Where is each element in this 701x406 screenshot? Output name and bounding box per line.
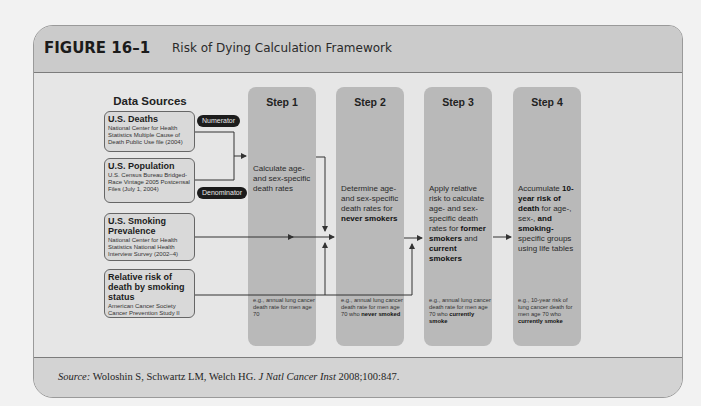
step-4-title: Step 4 — [513, 96, 581, 108]
step-3-title: Step 3 — [424, 96, 492, 108]
step-2-title: Step 2 — [336, 96, 404, 108]
step-4-description: Accumulate 10-year risk of death for age… — [518, 184, 580, 254]
step-1-title: Step 1 — [248, 96, 316, 108]
numerator-badge: Numerator — [197, 115, 240, 127]
source-name: U.S. Deaths — [108, 114, 191, 124]
step-4-example: e.g., 10-year risk of lung cancer death … — [518, 297, 580, 325]
source-box-relative-risk: Relative risk of death by smoking status… — [104, 269, 195, 318]
step-3-column: Step 3 Apply relative risk to calculate … — [424, 87, 492, 346]
data-sources-heading: Data Sources — [100, 95, 200, 107]
step-2-description: Determine age- and sex-specific death ra… — [341, 184, 403, 224]
step-2-column: Step 2 Determine age- and sex-specific d… — [336, 87, 404, 346]
source-box-smoking-prevalence: U.S. Smoking Prevalence National Center … — [104, 213, 195, 261]
source-name: U.S. Smoking Prevalence — [108, 216, 191, 236]
step-4-column: Step 4 Accumulate 10-year risk of death … — [513, 87, 581, 346]
figure-footer: Source: Woloshin S, Schwartz LM, Welch H… — [34, 357, 682, 397]
step-1-description: Calculate age- and sex-specific death ra… — [253, 164, 315, 194]
step-1-column: Step 1 Calculate age- and sex-specific d… — [248, 87, 316, 346]
source-citation: Source: Woloshin S, Schwartz LM, Welch H… — [58, 371, 399, 382]
source-detail: American Cancer Society Cancer Preventio… — [108, 303, 191, 317]
step-3-example: e.g., annual lung cancer death rate for … — [429, 297, 491, 325]
source-authors: Woloshin S, Schwartz LM, Welch HG. — [90, 371, 258, 382]
source-box-us-population: U.S. Population U.S. Census Bureau Bridg… — [104, 158, 195, 203]
source-detail: National Center for Health Statistics Na… — [108, 237, 191, 259]
figure-title: Risk of Dying Calculation Framework — [172, 41, 392, 55]
step-3-description: Apply relative risk to calculate age- an… — [429, 184, 491, 264]
step-2-example: e.g., annual lung cancer death rate for … — [341, 297, 403, 318]
figure-header: FIGURE 16–1 Risk of Dying Calculation Fr… — [34, 26, 682, 73]
source-year-volume: 2008;100:847. — [336, 371, 400, 382]
denominator-badge: Denominator — [197, 187, 247, 199]
source-name: U.S. Population — [108, 161, 191, 171]
source-detail: U.S. Census Bureau Bridged-Race Vintage … — [108, 172, 191, 194]
step-1-example: e.g., annual lung cancer death rate for … — [253, 297, 315, 318]
source-label: Source: — [58, 371, 90, 382]
source-journal: J Natl Cancer Inst — [259, 371, 336, 382]
source-name: Relative risk of death by smoking status — [108, 272, 191, 302]
figure-label: FIGURE 16–1 — [44, 39, 150, 57]
source-detail: National Center for Health Statistics Mu… — [108, 125, 191, 147]
source-box-us-deaths: U.S. Deaths National Center for Health S… — [104, 111, 195, 152]
